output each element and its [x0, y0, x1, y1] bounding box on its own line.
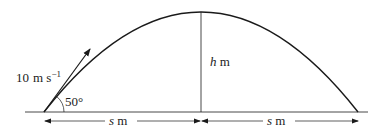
left-distance-label: s m — [109, 113, 127, 128]
angle-arc — [57, 97, 64, 112]
height-label: h m — [210, 54, 230, 69]
projectile-diagram: 10m s−1 50° h m s m s m — [0, 0, 375, 134]
velocity-label: 10m s−1 — [16, 69, 61, 85]
right-distance-label: s m — [267, 113, 285, 128]
angle-label: 50° — [65, 94, 83, 109]
